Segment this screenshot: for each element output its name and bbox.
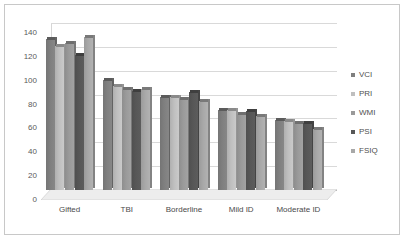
- bar: [46, 39, 55, 190]
- bar-side-face: [265, 114, 267, 188]
- bar-body: [294, 123, 303, 190]
- bar: [103, 80, 112, 190]
- bar-body: [75, 55, 84, 190]
- bar: [179, 99, 188, 190]
- bar-group: [275, 13, 322, 190]
- y-axis-tick-label: 80: [7, 101, 37, 109]
- bar: [246, 111, 255, 190]
- bar-group: [46, 13, 93, 190]
- bar: [313, 129, 322, 190]
- legend-swatch-icon: [351, 73, 355, 77]
- bar: [284, 121, 293, 190]
- bar: [160, 97, 169, 190]
- bar: [84, 37, 93, 190]
- bar: [170, 97, 179, 190]
- bar-body: [122, 89, 131, 190]
- bar: [256, 116, 265, 190]
- bar: [294, 123, 303, 190]
- bar-body: [103, 80, 112, 190]
- bar-body: [65, 43, 74, 190]
- bar-body: [218, 110, 227, 190]
- bar-body: [141, 89, 150, 190]
- bar-body: [313, 129, 322, 190]
- bar-group: [103, 13, 150, 190]
- bar-side-face: [208, 99, 210, 188]
- x-axis-category-label: Mild ID: [213, 205, 270, 214]
- bar-group: [218, 13, 265, 190]
- bar-side-face: [322, 127, 324, 188]
- bar-body: [132, 91, 141, 190]
- x-axis-category-label: Moderate ID: [270, 205, 327, 214]
- bar: [132, 91, 141, 190]
- bar: [275, 120, 284, 190]
- legend-swatch-icon: [351, 92, 355, 96]
- y-axis-tick-label: 60: [7, 124, 37, 132]
- bar-body: [275, 120, 284, 190]
- bar-body: [303, 123, 312, 190]
- bar: [303, 123, 312, 190]
- legend-item-label: PRI: [359, 89, 372, 98]
- bar: [55, 46, 64, 190]
- y-axis: 020406080100120140: [5, 5, 37, 236]
- bar-side-face: [150, 87, 152, 188]
- bar-body: [199, 101, 208, 190]
- bar-body: [160, 97, 169, 190]
- x-axis-category-label: Gifted: [41, 205, 98, 214]
- bar: [218, 110, 227, 190]
- legend-item-label: WMI: [359, 108, 375, 117]
- x-axis-category-label: Borderline: [155, 205, 212, 214]
- legend-item-label: PSI: [359, 127, 372, 136]
- chart-floor: [41, 189, 337, 200]
- legend-swatch-icon: [351, 130, 355, 134]
- plot-area: [41, 23, 337, 200]
- bar-body: [55, 46, 64, 190]
- legend-item-label: VCI: [359, 70, 372, 79]
- y-axis-tick-label: 40: [7, 148, 37, 156]
- bar: [122, 89, 131, 190]
- bar-body: [113, 86, 122, 190]
- y-axis-tick-label: 140: [7, 29, 37, 37]
- bar-body: [284, 121, 293, 190]
- bar-body: [237, 114, 246, 190]
- bar-group: [160, 13, 207, 190]
- bar: [189, 92, 198, 190]
- chart-legend: VCIPRIWMIPSIFSIQ: [351, 65, 399, 160]
- bar: [75, 55, 84, 190]
- bar: [113, 86, 122, 190]
- legend-item: WMI: [351, 103, 399, 122]
- bar-body: [227, 110, 236, 190]
- bar-body: [84, 37, 93, 190]
- bar: [199, 101, 208, 190]
- bar-body: [246, 111, 255, 190]
- legend-item: PSI: [351, 122, 399, 141]
- bar-body: [170, 97, 179, 190]
- legend-item: FSIQ: [351, 141, 399, 160]
- legend-swatch-icon: [351, 149, 355, 153]
- y-axis-tick-label: 0: [7, 196, 37, 204]
- y-axis-tick-label: 20: [7, 172, 37, 180]
- bar-body: [179, 99, 188, 190]
- legend-item: PRI: [351, 84, 399, 103]
- legend-item-label: FSIQ: [359, 146, 378, 155]
- legend-swatch-icon: [351, 111, 355, 115]
- y-axis-tick-label: 120: [7, 53, 37, 61]
- y-axis-tick-label: 100: [7, 77, 37, 85]
- bar-body: [256, 116, 265, 190]
- chart-frame: 020406080100120140 GiftedTBIBorderlineMi…: [4, 4, 400, 235]
- bar: [227, 110, 236, 190]
- x-axis-category-label: TBI: [98, 205, 155, 214]
- legend-item: VCI: [351, 65, 399, 84]
- bar-body: [46, 39, 55, 190]
- bar: [65, 43, 74, 190]
- bar: [141, 89, 150, 190]
- bar: [237, 114, 246, 190]
- bar-side-face: [93, 35, 95, 188]
- bar-body: [189, 92, 198, 190]
